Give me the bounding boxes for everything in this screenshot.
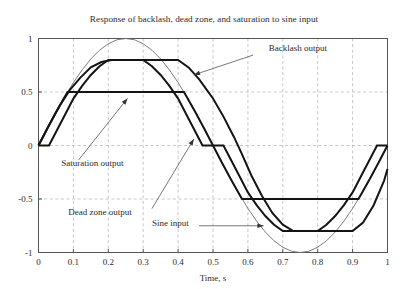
annotation-label-saturation-output: Saturation output	[61, 158, 124, 168]
x-tick-label: 0.8	[312, 257, 324, 267]
annotation-arrowhead-saturation-output	[122, 98, 128, 104]
annotation-layer: Backlash outputSaturation outputDead zon…	[61, 43, 327, 228]
annotation-arrowhead-dead-zone-output	[189, 139, 194, 145]
annotation-leader-saturation-output	[79, 98, 128, 160]
annotation-arrowhead-sine-input	[257, 223, 263, 228]
y-tick-label: -1	[25, 248, 33, 258]
x-tick-label: 0.2	[103, 257, 114, 267]
x-tick-label: 0.3	[138, 257, 150, 267]
y-tick-label: -0.5	[18, 194, 33, 204]
y-tick-label: 0	[28, 141, 33, 151]
annotation-label-sine-input: Sine input	[152, 218, 189, 228]
y-tick-label: 1	[28, 34, 33, 44]
figure: Response of backlash, dead zone, and sat…	[0, 0, 408, 289]
x-tick-label: 0.7	[277, 257, 289, 267]
x-axis-title: Time, s	[200, 273, 227, 283]
annotation-label-dead-zone-output: Dead zone output	[68, 207, 132, 217]
x-tick-label: 0.9	[347, 257, 359, 267]
x-tick-label: 0.5	[207, 257, 219, 267]
y-tick-label: 0.5	[21, 87, 33, 97]
annotation-leader-dead-zone-output	[152, 139, 194, 209]
x-tick-label: 0.1	[68, 257, 79, 267]
annotation-label-backlash-output: Backlash output	[269, 43, 328, 53]
annotation-leader-backlash-output	[194, 55, 253, 75]
x-tick-label: 0.4	[172, 257, 184, 267]
axis-title-layer: Time, s	[200, 273, 227, 283]
x-tick-label: 1	[385, 257, 390, 267]
x-tick-label: 0.6	[242, 257, 254, 267]
chart-plot-area: Backlash outputSaturation outputDead zon…	[0, 0, 408, 289]
x-tick-label: 0	[36, 257, 41, 267]
